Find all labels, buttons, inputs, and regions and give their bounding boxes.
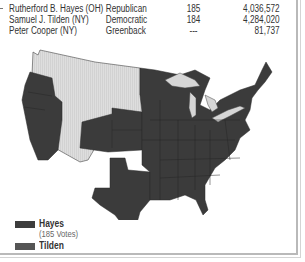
popular-votes: 4,036,572 [230, 3, 279, 14]
electoral-votes: --- [181, 25, 206, 36]
party-name: Greenback [106, 25, 146, 36]
popular-votes: 4,284,020 [230, 14, 279, 25]
hayes-swatch [15, 221, 35, 228]
candidate-name: Rutherford B. Hayes (OH) [9, 3, 103, 14]
electoral-votes: 184 [181, 14, 206, 25]
us-election-map [0, 40, 300, 220]
candidate-name: Samuel J. Tilden (NY) [9, 14, 89, 25]
legend-label: Hayes [39, 218, 64, 229]
electoral-votes: 185 [181, 3, 206, 14]
candidate-name: Peter Cooper (NY) [9, 25, 77, 36]
legend-sublabel: (185 Votes) [39, 229, 78, 239]
party-name: Republican [106, 3, 147, 14]
texas [92, 158, 150, 220]
margin-tick [0, 8, 3, 9]
legend-label: Tilden [39, 240, 64, 251]
tilden-swatch [15, 243, 35, 250]
party-name: Democratic [106, 14, 147, 25]
popular-votes: 81,737 [230, 25, 279, 36]
